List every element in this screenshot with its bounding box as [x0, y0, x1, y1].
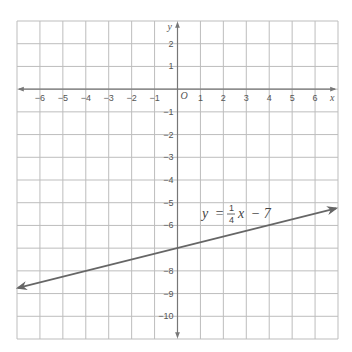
y-axis-label: y — [167, 21, 173, 32]
y-tick-label: −6 — [163, 220, 173, 230]
x-tick-label: 1 — [198, 93, 203, 103]
equation-rest: x − 7 — [237, 206, 272, 221]
x-tick-label: −5 — [58, 93, 68, 103]
equation-label: y = — [200, 206, 224, 221]
y-tick-label: −5 — [163, 198, 173, 208]
x-tick-label: −4 — [81, 93, 91, 103]
x-tick-label: 4 — [267, 93, 272, 103]
x-tick-label: 3 — [244, 93, 249, 103]
y-tick-label: 1 — [168, 61, 173, 71]
x-tick-label: −3 — [104, 93, 114, 103]
equation-fraction-denominator: 4 — [229, 215, 234, 225]
origin-label: O — [181, 90, 188, 101]
y-tick-label: 2 — [168, 39, 173, 49]
y-tick-label: −10 — [158, 311, 173, 321]
x-tick-label: −1 — [149, 93, 159, 103]
x-axis-label: x — [329, 92, 335, 103]
x-tick-label: 5 — [290, 93, 295, 103]
x-tick-label: 2 — [221, 93, 226, 103]
x-tick-label: 6 — [313, 93, 318, 103]
x-tick-label: −2 — [127, 93, 137, 103]
y-tick-label: −1 — [163, 107, 173, 117]
equation-fraction-numerator: 1 — [229, 203, 234, 213]
coordinate-plane: −6−5−4−3−2−112345621−1−2−3−4−5−6−8−9−10O… — [0, 0, 352, 352]
y-tick-label: −2 — [163, 130, 173, 140]
x-tick-label: −6 — [35, 93, 45, 103]
y-tick-label: −3 — [163, 152, 173, 162]
y-tick-label: −9 — [163, 289, 173, 299]
y-tick-label: −8 — [163, 266, 173, 276]
y-tick-label: −4 — [163, 175, 173, 185]
